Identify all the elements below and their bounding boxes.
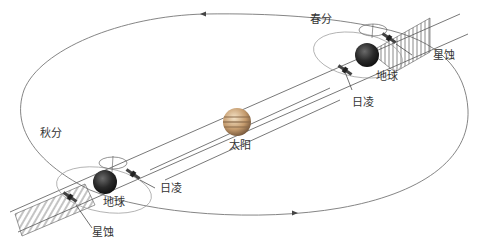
sun (223, 108, 251, 136)
earth-bottom (93, 170, 117, 194)
label-eclipse-top: 星蚀 (433, 50, 455, 61)
label-solar-conjunction-bottom: 日凌 (160, 183, 182, 194)
label-earth-bottom: 地球 (103, 197, 125, 208)
label-autumn-equinox: 秋分 (40, 128, 62, 139)
diagram-canvas (0, 0, 477, 247)
label-eclipse-bottom: 星蚀 (92, 227, 114, 238)
label-sun: 太阳 (229, 140, 251, 151)
orbit-arrow-top (200, 12, 206, 17)
label-spring-equinox: 春分 (310, 14, 332, 25)
label-earth-top: 地球 (376, 71, 398, 82)
orbit-arrow-bottom (292, 211, 298, 216)
label-solar-conjunction-top: 日凌 (352, 97, 374, 108)
earth-orbit-diagram: 春分 秋分 太阳 地球 地球 日凌 日凌 星蚀 星蚀 (0, 0, 477, 247)
eclipse-shadow-top (370, 18, 430, 72)
earth-top (355, 43, 379, 67)
